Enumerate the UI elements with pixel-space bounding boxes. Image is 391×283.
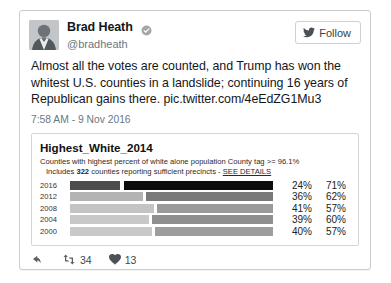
like-count: 13	[125, 254, 137, 266]
chart-bar-left-segment	[70, 215, 149, 224]
tweet-text-line-3: gains there.	[96, 92, 160, 106]
follow-button[interactable]: Follow	[295, 21, 361, 44]
chart-bar-left-segment	[70, 204, 154, 213]
display-name: Brad Heath	[67, 20, 133, 35]
chart-bar-right-segment	[146, 192, 272, 201]
tweet-text: Almost all the votes are counted, and Tr…	[31, 58, 359, 108]
chart-bar-left-segment	[70, 192, 143, 201]
chart-card[interactable]: Highest_White_2014 Counties with highest…	[31, 133, 359, 246]
chart-row-year: 2004	[40, 215, 70, 224]
retweet-action[interactable]: 34	[62, 254, 92, 266]
tweet-header: Brad Heath @bradheath Follow	[20, 11, 370, 55]
chart-value-right: 57%	[320, 204, 346, 213]
avatar[interactable]	[29, 20, 59, 50]
tweet-actions: 34 13	[20, 246, 370, 266]
chart-bar-right-segment	[157, 204, 273, 213]
chart-row-values: 41%57%	[276, 204, 350, 213]
chart-row-year: 2000	[40, 227, 70, 236]
chart-row-year: 2012	[40, 192, 70, 201]
chart-row-values: 40%57%	[276, 227, 350, 236]
chart-row-bars	[70, 227, 276, 236]
chart-row-values: 36%62%	[276, 192, 350, 201]
author-name-block: Brad Heath @bradheath	[67, 18, 152, 51]
tweet-card: Brad Heath @bradheath Follow	[19, 10, 371, 270]
chart-bar-left-segment	[70, 227, 152, 236]
chart-subtitle: Counties with highest percent of white a…	[40, 157, 350, 167]
chart-row-values: 39%60%	[276, 215, 350, 224]
retweet-icon	[62, 254, 76, 265]
chart-title: Highest_White_2014	[40, 141, 350, 155]
chart-value-left: 39%	[286, 215, 312, 224]
includes-prefix: Includes	[46, 167, 76, 176]
chart-value-right: 57%	[320, 227, 346, 236]
chart-value-left: 40%	[286, 227, 312, 236]
counties-count: 322	[76, 167, 89, 176]
tweet-body: Almost all the votes are counted, and Tr…	[20, 55, 370, 126]
chart-row-values: 24%71%	[276, 181, 350, 190]
handle: @bradheath	[67, 37, 152, 51]
reply-action[interactable]	[33, 254, 45, 265]
retweet-count: 34	[80, 254, 92, 266]
chart-value-right: 60%	[320, 215, 346, 224]
verified-badge-icon	[141, 22, 152, 33]
chart-row-year: 2008	[40, 204, 70, 213]
chart-row: 201236%62%	[40, 192, 350, 201]
chart-bar-right-segment	[124, 181, 273, 190]
chart-bar-right-segment	[155, 227, 272, 236]
chart-row-bars	[70, 192, 276, 201]
heart-icon	[109, 254, 121, 265]
tweet-timestamp[interactable]: 7:58 AM - 9 Nov 2016	[31, 113, 359, 126]
chart-row: 201624%71%	[40, 181, 350, 190]
chart-value-left: 24%	[286, 181, 312, 190]
follow-label: Follow	[319, 27, 351, 39]
tweet-media-link[interactable]: pic.twitter.com/4eEdZG1Mu3	[163, 92, 321, 106]
reply-arrow-icon	[33, 254, 45, 265]
chart-row: 200040%57%	[40, 227, 350, 236]
chart-value-right: 71%	[320, 181, 346, 190]
chart-value-left: 41%	[286, 204, 312, 213]
like-action[interactable]: 13	[109, 254, 137, 266]
chart-value-left: 36%	[286, 192, 312, 201]
see-details-link[interactable]: SEE DETAILS	[223, 167, 271, 176]
screenshot-root: Brad Heath @bradheath Follow	[0, 0, 391, 283]
chart-subtitle-2: Includes 322 counties reporting sufficie…	[46, 167, 350, 177]
twitter-bird-icon	[303, 27, 315, 38]
chart-bar-left-segment	[70, 181, 120, 190]
chart-row: 200841%57%	[40, 204, 350, 213]
chart-bar-right-segment	[152, 215, 273, 224]
chart-row-bars	[70, 215, 276, 224]
chart-row-bars	[70, 181, 276, 190]
chart-row: 200439%60%	[40, 215, 350, 224]
chart-row-year: 2016	[40, 181, 70, 190]
chart-value-right: 62%	[320, 192, 346, 201]
includes-suffix: counties reporting sufficient precincts …	[89, 167, 223, 176]
chart-rows: 201624%71%201236%62%200841%57%200439%60%…	[40, 181, 350, 236]
chart-row-bars	[70, 204, 276, 213]
